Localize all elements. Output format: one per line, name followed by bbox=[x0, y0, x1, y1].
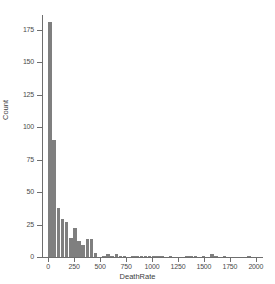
y-axis-tick bbox=[37, 30, 42, 31]
y-axis-tick-label: 75 bbox=[0, 156, 34, 163]
histogram-figure: 0255075100125150175025050075010001250150… bbox=[0, 0, 275, 284]
x-axis-title: DeathRate bbox=[0, 272, 275, 281]
y-axis-tick bbox=[37, 225, 42, 226]
y-axis-tick-label: 175 bbox=[0, 26, 34, 33]
y-axis-title: Count bbox=[1, 100, 10, 120]
y-axis-tick bbox=[37, 95, 42, 96]
x-axis-tick bbox=[126, 258, 127, 262]
y-axis-tick bbox=[37, 160, 42, 161]
x-axis-tick bbox=[230, 258, 231, 262]
y-axis-tick-label: 150 bbox=[0, 58, 34, 65]
y-axis-tick bbox=[37, 257, 42, 258]
x-axis-tick bbox=[204, 258, 205, 262]
x-axis-tick bbox=[152, 258, 153, 262]
x-axis-tick-label: 2000 bbox=[236, 263, 275, 270]
axis-ticks: 0255075100125150175025050075010001250150… bbox=[0, 0, 275, 284]
y-axis-tick-label: 0 bbox=[0, 253, 34, 260]
y-axis-tick bbox=[37, 62, 42, 63]
y-axis-tick-label: 100 bbox=[0, 123, 34, 130]
x-axis-tick bbox=[48, 258, 49, 262]
y-axis-tick-label: 25 bbox=[0, 221, 34, 228]
x-axis-tick bbox=[178, 258, 179, 262]
y-axis-tick-label: 50 bbox=[0, 188, 34, 195]
x-axis-tick bbox=[100, 258, 101, 262]
y-axis-tick bbox=[37, 192, 42, 193]
x-axis-tick bbox=[74, 258, 75, 262]
y-axis-tick bbox=[37, 127, 42, 128]
y-axis-tick-label: 125 bbox=[0, 91, 34, 98]
x-axis-tick bbox=[256, 258, 257, 262]
